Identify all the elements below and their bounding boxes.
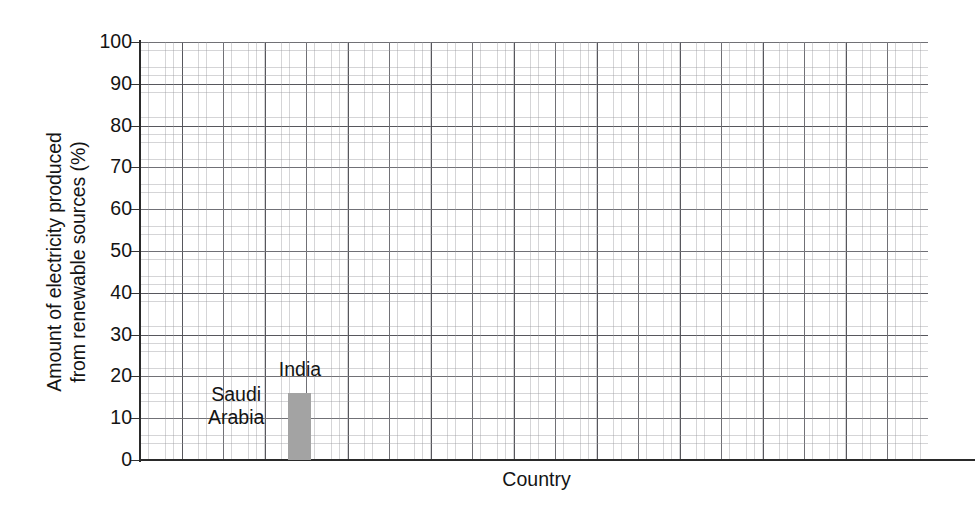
- y-axis-tick-label: 20: [82, 367, 132, 387]
- x-axis-line: [139, 459, 975, 461]
- category-label-india: India: [279, 358, 321, 382]
- category-label-line: Saudi: [208, 383, 264, 407]
- category-label-line: Arabia: [208, 406, 264, 430]
- y-axis-tick-label: 80: [82, 116, 132, 136]
- y-axis-line: [139, 40, 141, 462]
- y-axis-tick-label: 70: [82, 158, 132, 178]
- bar-chart-figure: Amount of electricity produced from rene…: [0, 0, 975, 526]
- y-axis-tick-label: 30: [82, 325, 132, 345]
- y-axis-tick-label: 40: [82, 283, 132, 303]
- y-axis-tick-label: 90: [82, 74, 132, 94]
- y-axis-tick-label: 100: [82, 32, 132, 52]
- y-axis-tick-label: 60: [82, 199, 132, 219]
- y-axis-tick-label: 10: [82, 408, 132, 428]
- y-axis-tick-label: 0: [82, 450, 132, 470]
- x-axis-title-text: Country: [502, 468, 570, 491]
- category-label-saudi-arabia: SaudiArabia: [208, 383, 264, 431]
- y-axis-tick-labels: 0102030405060708090100: [82, 42, 132, 460]
- y-axis-tick-label: 50: [82, 241, 132, 261]
- x-axis-title: Country: [0, 468, 975, 491]
- y-axis-title-line-1: Amount of electricity produced: [43, 132, 67, 391]
- category-label-line: India: [279, 358, 321, 382]
